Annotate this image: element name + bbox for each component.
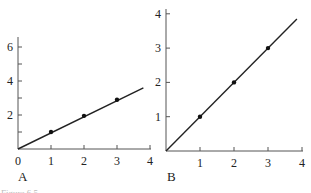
y-tick-label: 2 (155, 75, 161, 89)
panel-label: A (18, 169, 28, 184)
y-tick-label: 1 (155, 110, 161, 124)
x-tick-label: 0 (15, 154, 21, 168)
y-tick-label: 4 (7, 74, 13, 88)
x-tick-label: 4 (147, 154, 153, 168)
fit-line (166, 19, 297, 151)
panel-label: B (167, 169, 176, 184)
x-tick-label: 3 (265, 156, 271, 170)
figure: 01234246A12341234BFigure 6.5 (0, 0, 311, 193)
fit-line (18, 88, 143, 149)
chart-panel-b: 12341234B (155, 7, 305, 184)
y-tick-label: 4 (155, 7, 161, 21)
x-tick-label: 1 (197, 156, 203, 170)
x-tick-label: 2 (231, 156, 237, 170)
data-point (232, 80, 236, 84)
x-tick-label: 4 (299, 156, 305, 170)
figure-caption: Figure 6.5 (1, 188, 38, 193)
y-tick-label: 3 (155, 41, 161, 55)
x-tick-label: 1 (48, 154, 54, 168)
data-point (115, 98, 119, 102)
chart-panel-a: 01234246A (7, 37, 153, 184)
x-tick-label: 3 (114, 154, 120, 168)
data-point (198, 115, 202, 119)
data-point (49, 130, 53, 134)
y-tick-label: 6 (7, 40, 13, 54)
data-point (266, 46, 270, 50)
y-tick-label: 2 (7, 108, 13, 122)
x-tick-label: 2 (81, 154, 87, 168)
data-point (82, 114, 86, 118)
